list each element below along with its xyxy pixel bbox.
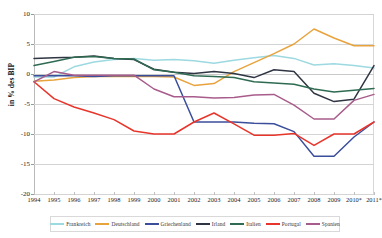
x-tick-label: 1997 bbox=[88, 196, 101, 203]
x-tickmark bbox=[74, 192, 75, 195]
gridline--20 bbox=[34, 194, 374, 195]
series-line-irland bbox=[34, 56, 374, 102]
x-tick-label: 1995 bbox=[48, 196, 61, 203]
plot-area: 1050-5-10-15-20 bbox=[34, 14, 374, 194]
series-line-frankreich bbox=[34, 55, 374, 77]
x-axis: 1994199519961997199819992000200120022003… bbox=[34, 196, 374, 210]
x-tickmark bbox=[234, 192, 235, 195]
legend-item-deutschland[interactable]: Deutschland bbox=[95, 221, 139, 227]
chart-legend: FrankreichDeutschlandGriechenlandIrlandI… bbox=[50, 216, 340, 232]
x-tick-label: 1994 bbox=[28, 196, 41, 203]
y-tick-label: -10 bbox=[21, 130, 30, 138]
series-lines bbox=[34, 14, 374, 194]
x-tickmark bbox=[194, 192, 195, 195]
legend-swatch-icon bbox=[266, 223, 280, 225]
series-line-portugal bbox=[34, 82, 374, 146]
y-tick-label: 10 bbox=[23, 10, 30, 18]
x-tickmark bbox=[374, 192, 375, 195]
series-line-spanien bbox=[34, 72, 374, 119]
legend-swatch-icon bbox=[230, 223, 244, 225]
y-tick-label: -15 bbox=[21, 160, 30, 168]
legend-label: Irland bbox=[212, 221, 225, 227]
x-tickmark bbox=[54, 192, 55, 195]
y-tick-label: 0 bbox=[27, 70, 31, 78]
x-tick-label: 2006 bbox=[268, 196, 281, 203]
x-tick-label: 2010* bbox=[346, 196, 362, 203]
legend-item-griechenland[interactable]: Griechenland bbox=[145, 221, 191, 227]
x-tickmark bbox=[334, 192, 335, 195]
x-tick-label: 1996 bbox=[68, 196, 81, 203]
x-tickmark bbox=[134, 192, 135, 195]
legend-label: Deutschland bbox=[111, 221, 139, 227]
x-tick-label: 2005 bbox=[248, 196, 261, 203]
legend-item-irland[interactable]: Irland bbox=[196, 221, 225, 227]
legend-swatch-icon bbox=[145, 223, 159, 225]
x-tick-label: 2004 bbox=[228, 196, 241, 203]
legend-item-portugal[interactable]: Portugal bbox=[266, 221, 301, 227]
legend-swatch-icon bbox=[306, 223, 320, 225]
legend-label: Portugal bbox=[282, 221, 301, 227]
x-tickmark bbox=[354, 192, 355, 195]
y-axis-title: in % des BIP bbox=[7, 40, 16, 130]
legend-swatch-icon bbox=[95, 223, 109, 225]
x-tickmark bbox=[174, 192, 175, 195]
x-tickmark bbox=[114, 192, 115, 195]
y-tick-label: 5 bbox=[27, 40, 31, 48]
x-tickmark bbox=[214, 192, 215, 195]
x-tickmark bbox=[154, 192, 155, 195]
legend-item-frankreich[interactable]: Frankreich bbox=[50, 221, 90, 227]
x-tickmark bbox=[294, 192, 295, 195]
legend-item-italien[interactable]: Italien bbox=[230, 221, 260, 227]
x-tick-label: 2007 bbox=[288, 196, 301, 203]
x-tickmark bbox=[314, 192, 315, 195]
legend-label: Spanien bbox=[322, 221, 340, 227]
series-line-griechenland bbox=[34, 76, 374, 156]
x-tick-label: 1999 bbox=[128, 196, 141, 203]
legend-swatch-icon bbox=[50, 223, 64, 225]
legend-label: Griechenland bbox=[161, 221, 191, 227]
x-tick-label: 1998 bbox=[108, 196, 121, 203]
legend-label: Frankreich bbox=[66, 221, 90, 227]
x-tickmark bbox=[34, 192, 35, 195]
legend-swatch-icon bbox=[196, 223, 210, 225]
legend-item-spanien[interactable]: Spanien bbox=[306, 221, 340, 227]
x-tick-label: 2008 bbox=[308, 196, 321, 203]
x-tick-label: 2001 bbox=[168, 196, 181, 203]
x-tick-label: 2011* bbox=[366, 196, 382, 203]
x-tickmark bbox=[254, 192, 255, 195]
x-tickmark bbox=[274, 192, 275, 195]
y-tick-label: -5 bbox=[24, 100, 30, 108]
x-tick-label: 2000 bbox=[148, 196, 161, 203]
x-tick-label: 2002 bbox=[188, 196, 201, 203]
x-tick-label: 2003 bbox=[208, 196, 221, 203]
x-tickmark bbox=[94, 192, 95, 195]
x-tick-label: 2009 bbox=[328, 196, 341, 203]
legend-label: Italien bbox=[246, 221, 260, 227]
